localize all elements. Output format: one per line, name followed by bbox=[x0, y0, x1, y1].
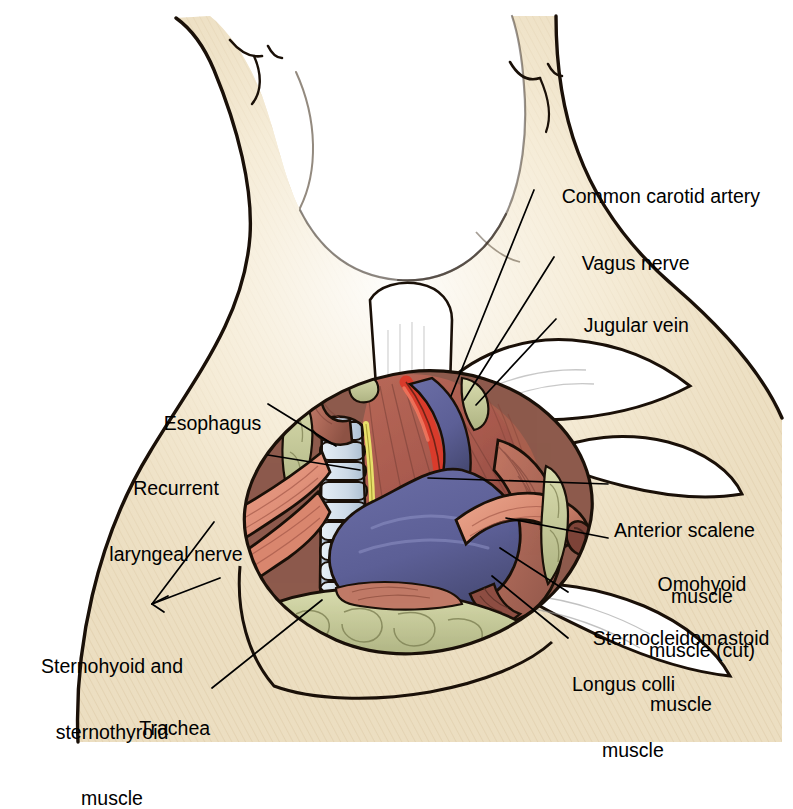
label-sternohyoid-and-sternothyroid-muscle-line-1: Sternohyoid and bbox=[12, 655, 212, 677]
label-recurrent-laryngeal-nerve-line-1: Recurrent bbox=[86, 477, 266, 499]
label-vagus-nerve: Vagus nerve bbox=[560, 230, 690, 296]
label-common-carotid-artery-text: Common carotid artery bbox=[562, 185, 760, 207]
label-longus-colli-muscle-line-1: Longus colli bbox=[572, 673, 790, 695]
label-sternohyoid-and-sternothyroid-muscle-line-3: muscle bbox=[12, 787, 212, 809]
label-esophagus-text: Esophagus bbox=[164, 412, 262, 434]
label-longus-colli-muscle-line-2: muscle bbox=[572, 739, 790, 761]
label-trachea-text: Trachea bbox=[139, 717, 210, 739]
label-recurrent-laryngeal-nerve: Recurrent laryngeal nerve bbox=[86, 433, 266, 609]
label-jugular-vein: Jugular vein bbox=[562, 292, 689, 358]
label-longus-colli-muscle: Longus colli muscle bbox=[572, 629, 790, 805]
label-jugular-vein-text: Jugular vein bbox=[584, 314, 689, 336]
suprasternal-notch-left bbox=[296, 72, 313, 208]
label-common-carotid-artery: Common carotid artery bbox=[540, 163, 760, 229]
label-vagus-nerve-text: Vagus nerve bbox=[582, 252, 690, 274]
label-trachea: Trachea bbox=[118, 695, 210, 761]
label-recurrent-laryngeal-nerve-line-2: laryngeal nerve bbox=[86, 543, 266, 565]
